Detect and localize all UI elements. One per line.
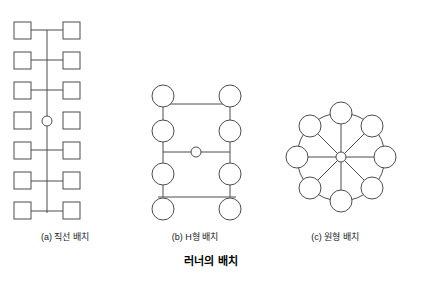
node-circle-b7 bbox=[152, 198, 174, 220]
caption-panel-c: (c) 원형 배치 bbox=[270, 230, 400, 243]
node-circle-c2 bbox=[361, 115, 383, 137]
node-circle-c6 bbox=[299, 177, 321, 199]
panel-a-straight-line bbox=[14, 22, 80, 219]
node-square-a9 bbox=[63, 52, 80, 69]
node-circle-c5 bbox=[330, 190, 352, 212]
node-square-a10 bbox=[63, 82, 80, 99]
node-square-a14 bbox=[63, 202, 80, 219]
node-square-a2 bbox=[14, 52, 31, 69]
node-square-a4 bbox=[14, 112, 31, 129]
hub-circle-c bbox=[336, 152, 346, 162]
caption-panel-a: (a) 직선 배치 bbox=[0, 230, 130, 243]
figure-container: (a) 직선 배치 (b) H형 배치 (c) 원형 배치 러너의 배치 bbox=[0, 0, 422, 282]
node-square-a1 bbox=[14, 22, 31, 39]
node-square-a7 bbox=[14, 202, 31, 219]
panel-b-h-shape bbox=[152, 85, 241, 220]
node-circle-c7 bbox=[286, 146, 308, 168]
node-square-a5 bbox=[14, 142, 31, 159]
hub-circle-b bbox=[191, 147, 201, 157]
node-circle-b3 bbox=[152, 120, 174, 142]
panel-c-circular bbox=[286, 102, 396, 212]
node-circle-b8 bbox=[219, 198, 241, 220]
caption-panel-b: (b) H형 배치 bbox=[130, 230, 260, 243]
node-circle-b4 bbox=[219, 120, 241, 142]
hub-circle-a bbox=[42, 116, 52, 126]
node-square-a3 bbox=[14, 82, 31, 99]
node-circle-c8 bbox=[299, 115, 321, 137]
node-circle-b5 bbox=[152, 163, 174, 185]
node-square-a8 bbox=[63, 22, 80, 39]
node-square-a13 bbox=[63, 172, 80, 189]
node-square-a6 bbox=[14, 172, 31, 189]
node-circle-b2 bbox=[219, 85, 241, 107]
node-circle-c3 bbox=[374, 146, 396, 168]
node-square-a11 bbox=[63, 112, 80, 129]
node-square-a12 bbox=[63, 142, 80, 159]
node-circle-b6 bbox=[219, 163, 241, 185]
node-circle-c4 bbox=[361, 177, 383, 199]
node-circle-c1 bbox=[330, 102, 352, 124]
figure-main-caption: 러너의 배치 bbox=[0, 252, 422, 268]
node-circle-b1 bbox=[152, 85, 174, 107]
